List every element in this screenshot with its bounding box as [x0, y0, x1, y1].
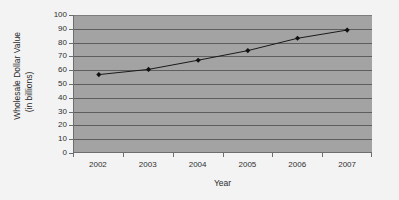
- series-marker-group: [96, 27, 350, 77]
- x-axis-tick-mark: [73, 153, 74, 157]
- y-axis-tick-label: 0: [63, 149, 67, 157]
- data-point-marker: [295, 36, 300, 41]
- y-axis-tick-label: 10: [58, 135, 67, 143]
- y-axis-title: Wholesale Dollar Value (in billions): [6, 0, 44, 168]
- line-chart-figure: Wholesale Dollar Value (in billions) 010…: [0, 0, 399, 200]
- y-axis-tick-group: 0102030405060708090100: [44, 15, 73, 153]
- x-axis-tick-label: 2003: [139, 160, 157, 169]
- data-point-marker: [196, 58, 201, 63]
- y-axis-tick-label: 60: [58, 66, 67, 74]
- y-axis-title-line-2: (in billions): [24, 72, 34, 113]
- x-axis-tick-label: 2005: [239, 160, 257, 169]
- x-axis-tick-mark: [371, 153, 372, 157]
- data-point-marker: [345, 27, 350, 32]
- y-axis-tick-label: 30: [58, 108, 67, 116]
- x-axis-tick-mark: [123, 153, 124, 157]
- y-axis-tick-label: 100: [54, 11, 67, 19]
- x-axis-tick-mark: [322, 153, 323, 157]
- x-axis-tick-group: 200220032004200520062007: [73, 153, 372, 173]
- y-axis-tick-label: 80: [58, 39, 67, 47]
- series-line-svg: [74, 15, 372, 152]
- y-axis-tick-label: 90: [58, 25, 67, 33]
- x-axis-tick-label: 2004: [189, 160, 207, 169]
- data-point-marker: [146, 67, 151, 72]
- y-axis-tick-label: 40: [58, 94, 67, 102]
- x-axis-tick-label: 2007: [338, 160, 356, 169]
- chart-title: [0, 0, 399, 1]
- plot-area: [73, 15, 372, 153]
- y-axis-tick-label: 50: [58, 80, 67, 88]
- series-line: [99, 30, 347, 75]
- x-axis-tick-mark: [272, 153, 273, 157]
- y-axis-tick-label: 70: [58, 52, 67, 60]
- data-point-marker: [96, 72, 101, 77]
- y-axis-title-line-1: Wholesale Dollar Value: [12, 32, 22, 120]
- y-axis-tick-label: 20: [58, 121, 67, 129]
- x-axis-title: Year: [73, 178, 372, 188]
- x-axis-tick-label: 2006: [288, 160, 306, 169]
- x-axis-tick-mark: [223, 153, 224, 157]
- x-axis-tick-mark: [173, 153, 174, 157]
- x-axis-tick-label: 2002: [89, 160, 107, 169]
- data-point-marker: [245, 48, 250, 53]
